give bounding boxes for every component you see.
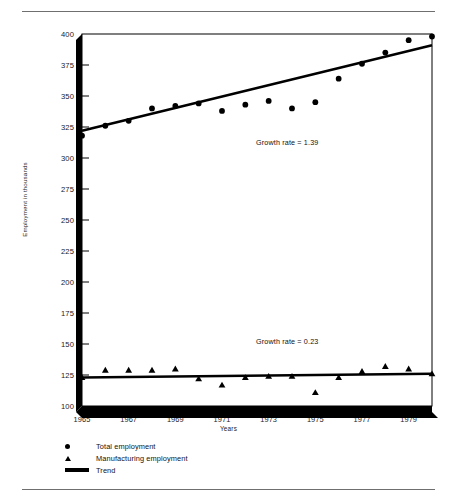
data-point-manufacturing-employment xyxy=(219,382,226,388)
data-point-manufacturing-employment xyxy=(312,389,319,395)
y-axis-shadow xyxy=(76,34,82,412)
data-point-total-employment xyxy=(406,37,412,43)
legend-item-total-employment: Total employment xyxy=(62,440,188,452)
circle-marker-icon xyxy=(62,444,96,449)
growth-rate-annotation: Growth rate = 1.39 xyxy=(256,138,318,147)
data-point-total-employment xyxy=(79,133,85,139)
legend-label: Total employment xyxy=(96,442,156,451)
data-point-total-employment xyxy=(382,50,388,56)
data-point-total-employment xyxy=(359,61,365,67)
data-point-total-employment xyxy=(149,106,155,112)
legend-label: Manufacturing employment xyxy=(96,454,188,463)
data-point-manufacturing-employment xyxy=(102,367,109,373)
data-point-total-employment xyxy=(219,108,225,114)
legend-item-trend: Trend xyxy=(62,464,188,476)
trend-line xyxy=(82,45,432,131)
data-point-total-employment xyxy=(172,103,178,109)
data-point-total-employment xyxy=(429,34,435,40)
data-point-total-employment xyxy=(242,102,248,108)
data-point-total-employment xyxy=(289,106,295,112)
data-point-total-employment xyxy=(126,118,132,124)
data-point-manufacturing-employment xyxy=(405,366,412,372)
plot-area xyxy=(0,0,457,496)
line-marker-icon xyxy=(62,468,96,471)
growth-rate-annotation: Growth rate = 0.23 xyxy=(256,337,318,346)
data-point-total-employment xyxy=(336,76,342,82)
data-point-manufacturing-employment xyxy=(172,366,179,372)
data-point-total-employment xyxy=(312,99,318,105)
legend-label: Trend xyxy=(96,466,116,475)
chart-legend: Total employment Manufacturing employmen… xyxy=(62,440,188,476)
data-point-total-employment xyxy=(266,98,272,104)
data-point-total-employment xyxy=(196,101,202,107)
triangle-marker-icon xyxy=(62,456,96,461)
data-point-manufacturing-employment xyxy=(149,367,156,373)
figure-employment-chart: Employment in thousands Years 1001251501… xyxy=(0,0,457,496)
x-axis-shadow-lower xyxy=(76,412,438,418)
legend-item-manufacturing-employment: Manufacturing employment xyxy=(62,452,188,464)
data-point-manufacturing-employment xyxy=(125,367,132,373)
x-axis-shadow xyxy=(76,406,432,412)
data-point-manufacturing-employment xyxy=(359,368,366,374)
data-point-manufacturing-employment xyxy=(382,363,389,369)
trend-line xyxy=(82,374,432,378)
data-point-total-employment xyxy=(102,123,108,129)
plot-frame xyxy=(82,34,432,406)
